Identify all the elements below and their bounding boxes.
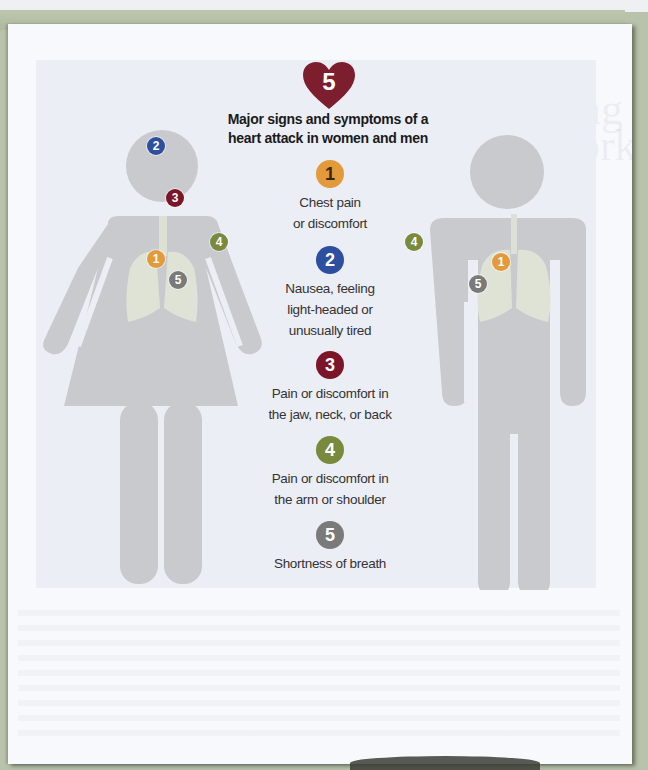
symptom-text: Chest pain or discomfort (245, 192, 415, 234)
woman-figure-icon (38, 128, 268, 588)
symptom-text: Shortness of breath (245, 553, 415, 574)
heart-number: 5 (303, 68, 355, 96)
symptom-item-1: 1 Chest pain or discomfort (245, 160, 415, 234)
symptom-text: Pain or discomfort in the arm or shoulde… (245, 468, 415, 510)
title-line-2: heart attack in women and men (200, 129, 456, 148)
man-marker-5: 5 (469, 275, 487, 293)
showthrough-paragraphs (18, 610, 620, 740)
symptom-badge: 2 (316, 246, 344, 274)
symptom-text: Nausea, feeling light-headed or unusuall… (245, 278, 415, 341)
woman-marker-2: 2 (147, 137, 165, 155)
woman-marker-3: 3 (166, 189, 184, 207)
figure-title: Major signs and symptoms of a heart atta… (200, 110, 456, 148)
symptom-item-4: 4 Pain or discomfort in the arm or shoul… (245, 436, 415, 510)
symptom-text: Pain or discomfort in the jaw, neck, or … (245, 383, 415, 425)
symptom-item-2: 2 Nausea, feeling light-headed or unusua… (245, 246, 415, 341)
page-curl-shadow (350, 756, 540, 770)
symptom-badge: 3 (316, 351, 344, 379)
man-figure-icon (410, 130, 600, 590)
symptom-badge: 1 (316, 160, 344, 188)
title-line-1: Major signs and symptoms of a (200, 110, 456, 129)
symptom-item-5: 5 Shortness of breath (245, 521, 415, 574)
symptom-item-3: 3 Pain or discomfort in the jaw, neck, o… (245, 351, 415, 425)
symptom-badge: 4 (316, 436, 344, 464)
woman-marker-5: 5 (169, 271, 187, 289)
woman-marker-1: 1 (147, 250, 165, 268)
man-marker-1: 1 (492, 253, 510, 271)
woman-marker-4: 4 (210, 233, 228, 251)
symptom-badge: 5 (316, 521, 344, 549)
